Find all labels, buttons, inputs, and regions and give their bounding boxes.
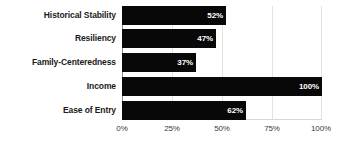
bar-series: 52% 47% 37% 100% 62% xyxy=(122,6,322,120)
bar-row: 47% xyxy=(122,29,322,48)
category-label: Historical Stability xyxy=(44,6,116,25)
category-label: Ease of Entry xyxy=(63,101,116,120)
bar-row: 52% xyxy=(122,6,322,25)
bar-value-label: 100% xyxy=(299,83,322,91)
tick-label-75: 75% xyxy=(264,123,280,134)
category-axis-labels: Historical Stability Resiliency Family-C… xyxy=(0,6,116,120)
bar-value-label: 47% xyxy=(197,35,216,43)
bar-income: 100% xyxy=(122,77,322,96)
category-label: Family-Centeredness xyxy=(32,53,116,72)
bar-ease-of-entry: 62% xyxy=(122,101,246,120)
tick-label-0: 0% xyxy=(116,123,127,134)
tick-label-25: 25% xyxy=(164,123,180,134)
horizontal-bar-chart: Historical Stability Resiliency Family-C… xyxy=(0,0,360,141)
plot-area: 52% 47% 37% 100% 62% xyxy=(122,6,322,120)
bar-row: 37% xyxy=(122,53,322,72)
category-label: Income xyxy=(87,77,116,96)
bar-family-centeredness: 37% xyxy=(122,53,196,72)
category-label: Resiliency xyxy=(75,29,116,48)
bar-row: 62% xyxy=(122,101,322,120)
value-axis-tick-labels: 0% 25% 50% 75% 100% xyxy=(122,123,322,137)
bar-resiliency: 47% xyxy=(122,29,216,48)
bar-row: 100% xyxy=(122,77,322,96)
bar-value-label: 62% xyxy=(227,107,246,115)
bar-historical-stability: 52% xyxy=(122,6,226,25)
bar-value-label: 37% xyxy=(177,59,196,67)
tick-label-50: 50% xyxy=(214,123,230,134)
bar-value-label: 52% xyxy=(207,12,226,20)
tick-label-100: 100% xyxy=(311,123,331,134)
